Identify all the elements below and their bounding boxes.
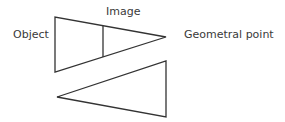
object-label: Object bbox=[13, 29, 49, 40]
diagram-shapes bbox=[0, 0, 285, 122]
lower-triangle bbox=[57, 61, 166, 117]
image-label: Image bbox=[106, 6, 140, 17]
upper-triangle bbox=[55, 17, 166, 72]
diagram-canvas: Object Image Geometral point bbox=[0, 0, 285, 122]
geometral-point-label: Geometral point bbox=[184, 29, 274, 40]
